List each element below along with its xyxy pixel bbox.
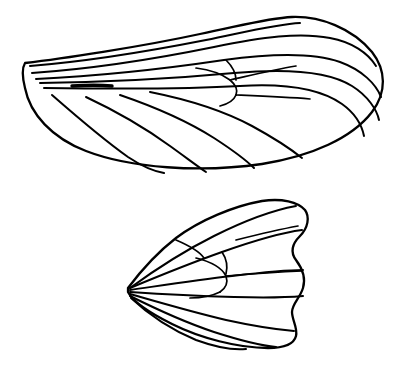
figure-root [0,0,398,375]
insect-wing-diagram [0,0,398,375]
forewing-basal-stout-vein [72,85,112,86]
